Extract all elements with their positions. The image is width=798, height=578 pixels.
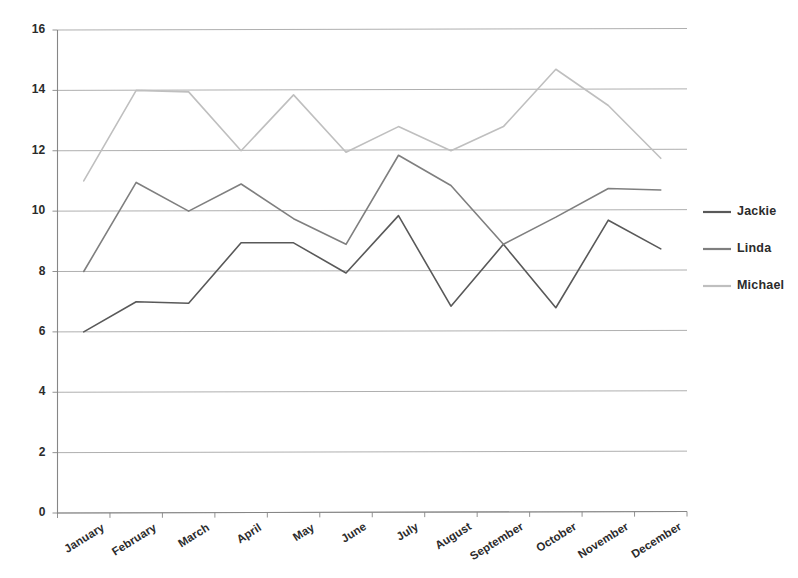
y-tick-label: 6: [16, 324, 46, 338]
axis-lines: [58, 30, 688, 514]
y-tick-label: 16: [16, 22, 46, 36]
y-tick-label: 8: [16, 264, 46, 278]
line-chart: 0246810121416 JanuaryFebruaryMarchAprilM…: [0, 0, 798, 578]
gridlines: [53, 29, 688, 514]
chart-plot-area: [0, 0, 798, 578]
gridline: [58, 451, 688, 453]
legend-label-michael: Michael: [737, 278, 784, 292]
series-line-michael: [84, 69, 661, 181]
legend-swatches: [703, 212, 731, 286]
series-line-linda: [84, 155, 661, 271]
y-tick-label: 4: [16, 384, 46, 398]
legend-label-linda: Linda: [737, 241, 771, 255]
series-line-jackie: [84, 216, 661, 332]
y-tick-label: 0: [16, 505, 46, 519]
gridline: [58, 330, 688, 332]
y-tick-label: 10: [16, 203, 46, 217]
legend-label-jackie: Jackie: [737, 204, 776, 218]
series-lines: [84, 69, 661, 332]
gridline: [58, 149, 688, 151]
y-tick-label: 2: [16, 445, 46, 459]
gridline: [58, 270, 688, 272]
gridline: [58, 210, 688, 212]
gridline: [58, 391, 688, 393]
y-tick-label: 14: [16, 82, 46, 96]
gridline: [58, 29, 688, 31]
y-tick-label: 12: [16, 143, 46, 157]
